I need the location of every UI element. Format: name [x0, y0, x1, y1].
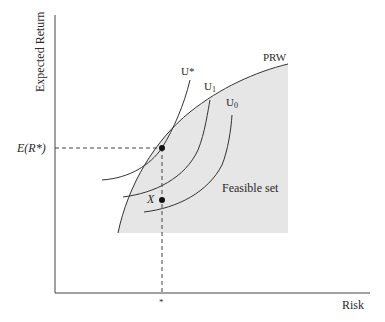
u1-main: U	[204, 80, 212, 92]
prw-label: PRW	[263, 52, 286, 63]
feasible-set-region	[118, 64, 288, 233]
u0-main: U	[226, 96, 234, 108]
diagram-canvas	[0, 0, 385, 322]
feasible-set-label: Feasible set	[222, 182, 278, 194]
point-x-label: X	[147, 193, 154, 205]
x-axis-label: Risk	[342, 299, 364, 311]
u-star-label: U*	[181, 66, 194, 77]
u-star-sup: *	[189, 65, 195, 77]
x-tick-label-risk-star: *	[159, 298, 164, 307]
optimum-point	[159, 145, 165, 151]
u1-sub: 1	[212, 85, 216, 94]
u0-sub: 0	[234, 101, 238, 110]
u1-label: U1	[204, 81, 216, 94]
y-axis-label: Expected Return	[34, 12, 46, 92]
y-tick-label-expected-return-star: E(R*)	[17, 142, 46, 154]
u-star-main: U	[181, 65, 189, 77]
u0-label: U0	[226, 97, 238, 110]
point-x	[159, 197, 165, 203]
